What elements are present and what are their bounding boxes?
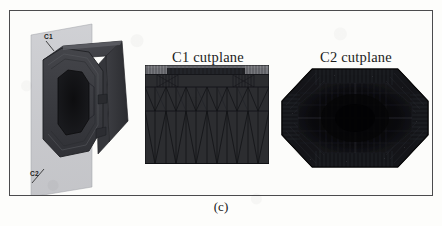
label-c1: C1 (44, 33, 53, 40)
label-c2: C2 (30, 170, 39, 177)
c1-mesh-svg (145, 65, 269, 164)
panel-c2-mesh (276, 63, 433, 173)
figure-caption: (c) (0, 199, 442, 215)
solid-body (43, 41, 128, 157)
panel-3d-model: C1 C2 (10, 11, 146, 196)
cavity-opening (58, 70, 89, 135)
c2-mesh-svg (276, 63, 433, 173)
model-svg: C1 C2 (10, 11, 146, 196)
figure-frame: C1 C2 C1 cutplane C2 cutplane (9, 10, 433, 196)
panel-c1-mesh (145, 65, 269, 164)
c1-cutplane-title: C1 cutplane (144, 49, 272, 66)
